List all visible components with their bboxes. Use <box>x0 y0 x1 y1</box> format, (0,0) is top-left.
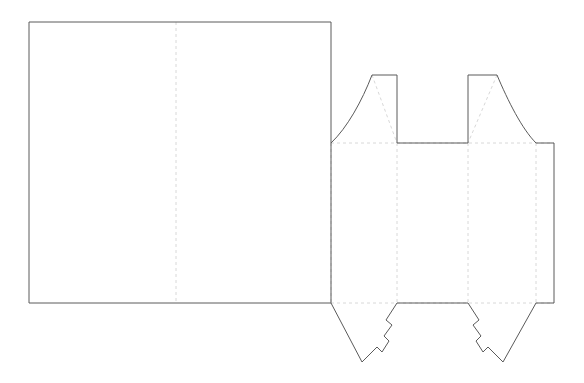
drawing-background <box>0 0 584 383</box>
dieline-drawing <box>0 0 584 383</box>
